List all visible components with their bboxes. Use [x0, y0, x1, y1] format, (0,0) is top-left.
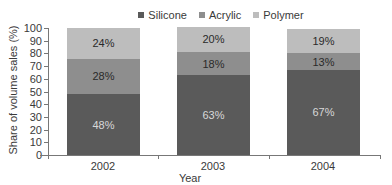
legend-label: Polymer	[263, 9, 303, 21]
x-tick	[380, 155, 381, 159]
x-tick-label: 2002	[73, 160, 133, 172]
x-axis-title: Year	[150, 172, 230, 184]
y-tick-label: 60	[22, 74, 42, 85]
bar-segment-acrylic: 13%	[287, 53, 360, 70]
legend-item-acrylic: Acrylic	[199, 8, 241, 22]
x-tick-label: 2004	[293, 160, 353, 172]
legend-item-polymer: Polymer	[253, 8, 303, 22]
legend-item-silicone: Silicone	[138, 8, 187, 22]
bar-segment-polymer: 19%	[287, 29, 360, 53]
y-tick-label: 20	[22, 125, 42, 136]
y-axis-line	[48, 28, 49, 156]
bar-segment-acrylic: 28%	[67, 59, 140, 95]
x-tick	[158, 155, 159, 159]
bar-segment-silicone: 48%	[67, 94, 140, 155]
y-tick-label: 70	[22, 61, 42, 72]
legend-label: Silicone	[148, 9, 187, 21]
x-tick	[269, 155, 270, 159]
x-tick-label: 2003	[183, 160, 243, 172]
bar-2002: 48%28%24%	[67, 28, 140, 155]
bar-segment-polymer: 24%	[67, 28, 140, 58]
y-tick-label: 80	[22, 48, 42, 59]
y-tick-label: 90	[22, 36, 42, 47]
y-tick-label: 30	[22, 112, 42, 123]
legend-swatch-acrylic	[199, 12, 205, 18]
legend-swatch-silicone	[138, 12, 144, 18]
bar-segment-polymer: 20%	[177, 27, 250, 52]
bar-segment-acrylic: 18%	[177, 52, 250, 75]
bar-segment-silicone: 67%	[287, 70, 360, 155]
legend-label: Acrylic	[209, 9, 241, 21]
bar-2003: 63%18%20%	[177, 27, 250, 155]
x-axis-line	[40, 155, 380, 156]
y-tick-label: 50	[22, 87, 42, 98]
x-tick	[48, 155, 49, 159]
bar-2004: 67%13%19%	[287, 29, 360, 155]
chart-legend: Silicone Acrylic Polymer	[0, 8, 392, 22]
y-tick-label: 10	[22, 137, 42, 148]
y-tick-label: 40	[22, 99, 42, 110]
y-tick-label: 100	[22, 23, 42, 34]
y-axis-title: Share of volume sales (%)	[7, 25, 19, 155]
bar-segment-silicone: 63%	[177, 75, 250, 155]
legend-swatch-polymer	[253, 12, 259, 18]
y-tick-label: 0	[22, 150, 42, 161]
